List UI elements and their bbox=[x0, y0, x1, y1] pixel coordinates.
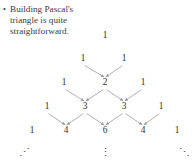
triangle-cell-r3-c3: 1 bbox=[141, 78, 146, 87]
triangle-cell-r3-c2: 2 bbox=[103, 78, 108, 87]
arrow-layer bbox=[0, 0, 196, 166]
slide-canvas: • Building Pascal's triangle is quite st… bbox=[0, 0, 196, 166]
ellipsis-bottom-right: ⋱ bbox=[179, 147, 190, 158]
triangle-cell-r3-c1: 1 bbox=[62, 78, 67, 87]
ellipsis-bottom-left: ⋰ bbox=[19, 147, 30, 158]
sum-arrow-8 bbox=[67, 114, 84, 125]
sum-arrow-11 bbox=[126, 114, 143, 125]
sum-arrow-3 bbox=[66, 90, 84, 101]
sum-arrow-1 bbox=[85, 66, 104, 77]
triangle-cell-r1-c1: 1 bbox=[103, 31, 108, 40]
triangle-cell-r5-c1: 1 bbox=[30, 126, 35, 135]
sum-arrow-4 bbox=[86, 90, 103, 101]
sum-arrow-2 bbox=[106, 66, 123, 77]
triangle-cell-r5-c4: 4 bbox=[141, 126, 146, 135]
ellipsis-bottom-center: ⋮ bbox=[100, 147, 111, 158]
sum-arrow-9 bbox=[87, 114, 104, 125]
triangle-cell-r5-c3: 6 bbox=[103, 126, 108, 135]
triangle-cell-r2-c2: 1 bbox=[122, 54, 127, 63]
pascals-triangle-figure: 111121133114641 ⋰⋮⋱ bbox=[0, 0, 196, 166]
arrow-group bbox=[49, 66, 160, 125]
sum-arrow-10 bbox=[106, 114, 123, 125]
triangle-cell-r5-c2: 4 bbox=[64, 126, 69, 135]
triangle-cell-r4-c3: 3 bbox=[122, 102, 127, 111]
triangle-cell-r4-c4: 1 bbox=[159, 102, 164, 111]
sum-arrow-12 bbox=[144, 114, 160, 125]
triangle-cell-r4-c1: 1 bbox=[45, 102, 50, 111]
sum-arrow-5 bbox=[107, 90, 124, 101]
triangle-cell-r5-c5: 1 bbox=[175, 126, 180, 135]
triangle-cell-r4-c2: 3 bbox=[83, 102, 88, 111]
sum-arrow-6 bbox=[125, 90, 142, 101]
triangle-cell-r2-c1: 1 bbox=[81, 54, 86, 63]
sum-arrow-7 bbox=[49, 114, 66, 125]
